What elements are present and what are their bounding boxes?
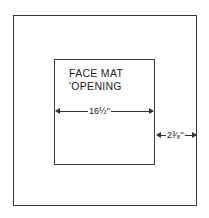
opening-label-line1: FACE MAT <box>69 67 123 80</box>
opening-label-line2: 'OPENING <box>69 80 123 93</box>
opening-width-label: 16½'' <box>88 106 111 116</box>
arrow-right-icon <box>192 132 197 138</box>
arrow-right-icon <box>149 108 154 114</box>
border-width-label: 2³⁄₈'' <box>166 130 185 140</box>
opening-label: FACE MAT 'OPENING <box>69 67 123 93</box>
